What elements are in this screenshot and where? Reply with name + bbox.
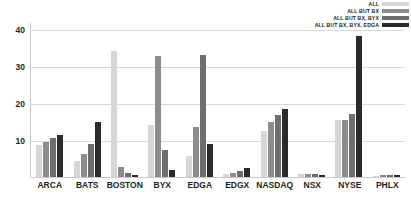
x-axis-label: NSX — [294, 180, 332, 191]
bar[interactable] — [81, 154, 87, 177]
bar[interactable] — [186, 156, 192, 177]
bar[interactable] — [74, 161, 80, 177]
y-axis-tick-label: 10 — [16, 137, 25, 145]
bar[interactable] — [88, 144, 94, 177]
bar[interactable] — [356, 36, 362, 177]
x-axis-labels: ARCABATSBOSTONBYXEDGAEDGXNASDAQNSXNYSEPH… — [31, 180, 406, 191]
bar[interactable] — [230, 173, 236, 177]
bar-group — [368, 23, 405, 177]
bar[interactable] — [244, 168, 250, 177]
legend-label: ALL BUT BX — [347, 8, 379, 14]
y-axis-tick-label: 30 — [16, 63, 25, 71]
bar[interactable] — [237, 171, 243, 177]
legend-item[interactable]: ALL — [369, 1, 409, 7]
bar-group — [143, 23, 180, 177]
bar[interactable] — [312, 174, 318, 177]
bar-group — [68, 23, 105, 177]
legend-label: ALL — [369, 1, 379, 7]
bar[interactable] — [275, 115, 281, 177]
bar-group — [218, 23, 255, 177]
bar[interactable] — [335, 120, 341, 177]
legend-swatch — [382, 2, 409, 6]
x-axis-label: BATS — [69, 180, 107, 191]
bar[interactable] — [162, 150, 168, 177]
bar[interactable] — [193, 127, 199, 177]
bar[interactable] — [342, 120, 348, 177]
bar-group — [293, 23, 330, 177]
bar-group — [31, 23, 68, 177]
legend-swatch — [382, 16, 409, 20]
legend-swatch — [382, 9, 409, 13]
bar-groups — [31, 23, 405, 177]
bar[interactable] — [387, 175, 393, 177]
x-axis-label: PHLX — [369, 180, 407, 191]
bar[interactable] — [298, 174, 304, 177]
bar[interactable] — [268, 122, 274, 177]
bar[interactable] — [380, 175, 386, 177]
bar[interactable] — [207, 144, 213, 177]
x-axis-label: BYX — [144, 180, 182, 191]
bar[interactable] — [169, 170, 175, 177]
bar[interactable] — [349, 114, 355, 177]
x-axis-label: BOSTON — [106, 180, 144, 191]
bar[interactable] — [57, 135, 63, 177]
bar[interactable] — [261, 131, 267, 177]
legend-item[interactable]: ALL BUT BX, BYX — [333, 15, 409, 21]
x-axis-baseline — [30, 177, 405, 178]
plot-area: 10203040 — [30, 23, 405, 178]
x-axis-label: ARCA — [31, 180, 69, 191]
x-axis-label: EDGA — [181, 180, 219, 191]
bar[interactable] — [118, 167, 124, 177]
bar[interactable] — [132, 175, 138, 177]
bar[interactable] — [125, 173, 131, 177]
y-axis-tick-label: 20 — [16, 100, 25, 108]
legend-item[interactable]: ALL BUT BX — [347, 8, 409, 14]
bar[interactable] — [43, 142, 49, 177]
bar[interactable] — [50, 138, 56, 177]
bar-group — [255, 23, 292, 177]
x-axis-label: EDGX — [219, 180, 257, 191]
bar[interactable] — [200, 55, 206, 177]
bar[interactable] — [373, 176, 379, 177]
y-axis-tick-label: 40 — [16, 26, 25, 34]
bar-group — [330, 23, 367, 177]
x-axis-label: NYSE — [331, 180, 369, 191]
bar[interactable] — [155, 56, 161, 177]
bar[interactable] — [282, 109, 288, 177]
bar-group — [106, 23, 143, 177]
bar[interactable] — [305, 174, 311, 177]
bar[interactable] — [148, 125, 154, 177]
x-axis-label: NASDAQ — [256, 180, 294, 191]
bar[interactable] — [394, 175, 400, 177]
bar[interactable] — [111, 51, 117, 177]
bar-group — [181, 23, 218, 177]
bar[interactable] — [319, 175, 325, 177]
bar[interactable] — [223, 174, 229, 177]
legend-label: ALL BUT BX, BYX — [333, 15, 379, 21]
bar[interactable] — [36, 145, 42, 177]
bar-chart: ALLALL BUT BXALL BUT BX, BYXALL BUT BX, … — [0, 0, 411, 204]
bar[interactable] — [95, 122, 101, 177]
